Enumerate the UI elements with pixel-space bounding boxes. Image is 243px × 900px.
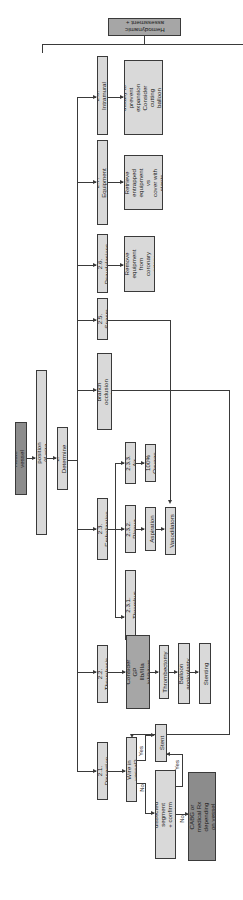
connector [108,320,171,321]
node-thrombosis: 2.2. Thrombosis [97,645,108,703]
node-label: Retrieve entrapped equipment vs cover wi… [124,168,163,197]
node-check-act: Check ACT. Consider GP IIb/IIIa inhibito… [126,635,150,709]
node-label: 2.3.2. Plaque [125,519,136,538]
edge-label-yes: Yes [138,746,144,756]
node-thrombectomy: Thrombectomy [159,645,169,699]
node-pseudolesions: 2.6. Pseudolesions [97,234,108,293]
node-able-to-wire: Able to wire through dissected segment +… [155,770,176,859]
node-embolization: 2.3. Embolization [97,498,108,560]
edge-label-no: No [179,815,185,823]
node-balloon-angioplasty: Balloon angioplasty [178,643,190,704]
node-label: Balloon angioplasty [178,658,190,689]
node-label: 2. Determine cause [57,444,68,473]
node-label: Able to wire through dissected segment +… [155,801,176,827]
node-label: 2.7. Equipment entrapment [97,167,108,198]
node-side-branch: 2.4. Side branch occlusion after stentin… [97,353,112,430]
node-aspiration: Aspiration [145,507,156,551]
connector [182,754,183,787]
node-emergency-cabg: Emergency CABG or medical Rx depending o… [188,772,216,861]
edge-label-yes: Yes [174,760,180,770]
node-intramural-hematoma: 2.8. Intramural hematoma [97,56,108,135]
node-label: 2.5. Spasm [97,309,108,328]
node-label: 2.2. Thrombosis [97,658,108,690]
node-label: 2.4. Side branch occlusion after stentin… [97,379,112,405]
node-spasm: 2.5. Spasm [97,298,108,340]
node-label: Emergency CABG or medical Rx depending o… [188,801,216,832]
connector [112,390,230,391]
node-hematoma-action: Stent distally to prevent expansion Cons… [124,60,163,135]
node-determine-cause: 2. Determine cause [57,427,68,490]
node-label: 2.6. Pseudolesions [97,243,108,283]
connector [144,36,145,44]
node-air: 2.3.3. Air [125,442,136,484]
node-thrombus: 2.3.1. Thrombus [125,570,136,640]
node-stenting: Stenting [199,643,211,704]
connector [145,783,146,813]
node-pseudolesion-action: Remove equipment from coronary artery [124,236,155,292]
node-label: Aspiration [147,515,154,543]
node-label: 1. Maintain wire position (if wire alrea… [36,441,47,464]
node-label: Check ACT. Consider GP IIb/IIIa inhibito… [126,659,150,685]
node-label: Wire in vessel? [126,759,137,780]
connector [229,390,230,735]
node-plaque: 2.3.2. Plaque [125,505,136,553]
node-label: 100% Oxygen [145,452,156,473]
arrow-icon [168,500,172,504]
node-dissection: 2.1. Dissection [97,742,108,800]
node-label: Vasodilators [167,514,174,548]
connector [77,97,78,772]
node-maintain-wire: 1. Maintain wire position (if wire alrea… [36,370,47,535]
node-label: Acute vessel closure [15,449,27,469]
node-label: 3. Hemodynamic assessment + support [125,18,165,36]
node-equipment-entrapment: 2.7. Equipment entrapment [97,140,108,225]
node-label: 2.3.1. Thrombus [125,591,136,619]
connector [115,463,116,618]
node-wire-in-vessel: Wire in vessel? [126,737,137,802]
connector [42,44,243,45]
node-entrapment-action: Retrieve entrapped equipment vs cover wi… [124,155,163,210]
node-label: 2.3.3. Air [125,455,136,470]
edge-label-no: No [139,784,145,792]
node-stent: Stent [155,724,167,762]
node-label: Stenting [202,662,209,685]
connector [42,44,43,53]
connector [137,760,145,761]
node-label: 2.3. Embolization [97,511,108,546]
node-acute-vessel-closure: Acute vessel closure [15,422,27,495]
node-label: Thrombectomy [161,651,168,692]
connector [170,320,171,502]
node-oxygen: 100% Oxygen [145,444,156,482]
node-hemodynamic: 3. Hemodynamic assessment + support [108,18,181,36]
node-vasodilators: Vasodilators [165,507,176,555]
node-label: 2.1. Dissection [97,757,108,786]
node-label: Stent distally to prevent expansion Cons… [124,81,163,115]
node-label: Stent [158,736,165,750]
node-label: 2.8. Intramural hematoma [97,81,108,110]
connector [145,735,146,761]
node-label: Remove equipment from coronary artery [124,250,155,279]
